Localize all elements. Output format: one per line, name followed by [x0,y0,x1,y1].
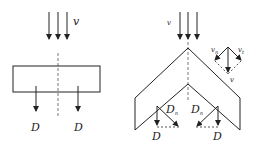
tangential-velocity-label: vt [238,46,245,55]
normal-force-label-right: Dn [190,103,203,116]
drag-label-left: D [151,130,161,143]
drag-label-left: D [30,121,40,134]
flow-velocity-label: v [167,19,171,27]
normal-force-label-left: Dn [165,103,178,116]
flow-arrows [49,12,67,39]
drag-label-right: D [73,121,83,134]
diagram-canvas: v D D v Dn D [0,0,258,148]
left-panel: v D D [13,12,100,134]
resultant-velocity-label: v [230,76,234,84]
flow-arrows [180,12,197,39]
right-panel: v Dn D Dn D vn vt v [135,12,245,143]
flat-plate [13,66,100,92]
normal-velocity-label: vn [211,46,218,55]
flow-velocity-label: v [73,15,80,28]
drag-label-right: D [212,130,222,143]
drag-arrows [36,86,78,111]
chevron-body [135,48,240,130]
